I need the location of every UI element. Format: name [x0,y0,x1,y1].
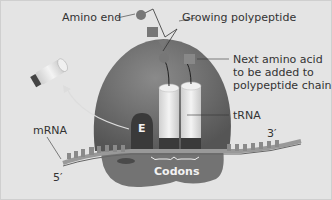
ribosome-diagram: E Codons [1,1,332,200]
growing-polypeptide-label: Growing polypeptide [182,11,296,24]
five-prime-label: 5′ [53,171,63,184]
next-amino-acid-label-2: to be added to [233,66,314,79]
amino-acid [159,53,169,63]
ribosome-groove [117,158,135,164]
next-amino-acid [184,54,195,64]
trna-a-site [181,82,201,151]
next-amino-acid-label-1: Next amino acid [233,53,323,66]
trna-label: tRNA [233,109,261,122]
exiting-trna [30,57,70,88]
codons-label: Codons [154,165,200,178]
mrna-label: mRNA [33,124,68,137]
exit-arrowhead [63,85,71,93]
amino-acid [147,27,158,37]
trna-p-site [159,84,179,151]
next-amino-acid-label-3: polypeptide chain [233,79,331,92]
amino-end-label: Amino end [62,11,121,24]
three-prime-label: 3′ [267,127,277,140]
e-site-label: E [138,122,146,135]
amino-acid [136,10,146,20]
mrna-leader [47,137,61,159]
diagram-canvas: E Codons [0,0,332,200]
